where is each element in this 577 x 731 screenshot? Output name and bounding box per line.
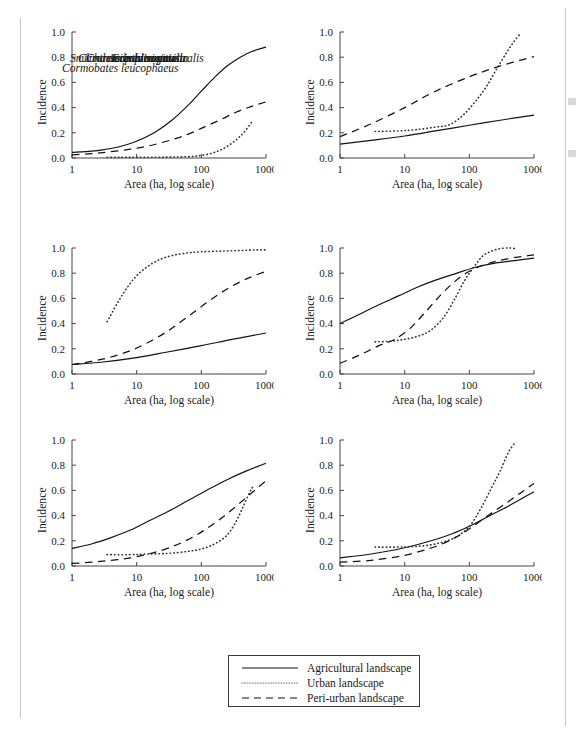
dashed-line-swatch: [241, 693, 299, 703]
x-axis-tick-label: 1: [337, 163, 343, 175]
x-axis-tick-label: 10: [399, 163, 411, 175]
y-axis-label: Incidence: [304, 295, 316, 341]
page-edge-mark: [568, 150, 576, 157]
x-axis-label: Area (ha, log scale): [72, 178, 266, 190]
legend-item: Peri-urban landscape: [241, 691, 419, 705]
series-line-urban: [107, 122, 251, 157]
x-axis-tick-label: 1: [69, 163, 75, 175]
x-axis-tick-label: 1000: [523, 163, 542, 175]
y-axis-tick-label: 0.6: [319, 484, 333, 496]
y-axis-tick-label: 0.2: [319, 343, 333, 355]
series-line-agricultural: [340, 258, 534, 324]
series-line-urban: [375, 443, 514, 547]
x-axis-tick-label: 1: [337, 379, 343, 391]
plot-area: 0.00.20.40.60.81.01101001000: [30, 22, 274, 194]
x-axis-tick-label: 1000: [523, 571, 542, 583]
y-axis-tick-label: 0.8: [319, 267, 333, 279]
y-axis-tick-label: 0.6: [51, 76, 65, 88]
y-axis-label: Incidence: [36, 295, 48, 341]
series-line-peri-urban: [340, 483, 534, 562]
chart-panel-p4: 0.00.20.40.60.81.01101001000IncidenceAre…: [298, 238, 542, 410]
series-line-urban: [107, 487, 252, 554]
y-axis-tick-label: 0.8: [319, 51, 333, 63]
y-axis-tick-label: 1.0: [319, 434, 333, 446]
plot-area: 0.00.20.40.60.81.01101001000: [298, 22, 542, 194]
x-axis-tick-label: 10: [131, 379, 143, 391]
y-axis-tick-label: 0.2: [319, 127, 333, 139]
x-axis-tick-label: 100: [461, 379, 478, 391]
chart-panel-p5: 0.00.20.40.60.81.01101001000IncidenceAre…: [30, 430, 274, 602]
y-axis-tick-label: 0.2: [51, 127, 65, 139]
y-axis-tick-label: 0.8: [51, 459, 65, 471]
plot-area: 0.00.20.40.60.81.01101001000: [298, 430, 542, 602]
chart-panel-p6: 0.00.20.40.60.81.01101001000IncidenceAre…: [298, 430, 542, 602]
series-line-peri-urban: [72, 102, 266, 155]
solid-line-swatch: [241, 663, 299, 673]
panel-species-title: Chthonicola sagittata: [86, 52, 186, 64]
y-axis-tick-label: 0.4: [51, 101, 65, 113]
series-line-peri-urban: [72, 481, 266, 564]
x-axis-label: Area (ha, log scale): [72, 394, 266, 406]
series-line-agricultural: [72, 463, 266, 548]
legend-item: Urban landscape: [241, 676, 419, 690]
x-axis-label: Area (ha, log scale): [72, 586, 266, 598]
y-axis-tick-label: 0.4: [319, 317, 333, 329]
x-axis-tick-label: 100: [193, 379, 210, 391]
x-axis-tick-label: 1: [69, 379, 75, 391]
y-axis-label: Incidence: [304, 487, 316, 533]
x-axis-tick-label: 1000: [255, 571, 274, 583]
y-axis-tick-label: 0.6: [319, 292, 333, 304]
y-axis-tick-label: 0.0: [319, 152, 333, 164]
y-axis-tick-label: 0.8: [319, 459, 333, 471]
y-axis-tick-label: 1.0: [51, 434, 65, 446]
y-axis-tick-label: 0.4: [319, 101, 333, 113]
x-axis-label: Area (ha, log scale): [340, 394, 534, 406]
x-axis-tick-label: 100: [193, 163, 210, 175]
y-axis-label: Incidence: [36, 487, 48, 533]
x-axis-tick-label: 1: [69, 571, 75, 583]
y-axis-label: Incidence: [36, 79, 48, 125]
x-axis-label: Area (ha, log scale): [340, 178, 534, 190]
series-line-peri-urban: [72, 271, 266, 364]
x-axis-tick-label: 10: [399, 379, 411, 391]
legend-item: Agricultural landscape: [241, 661, 419, 675]
x-axis-tick-label: 100: [193, 571, 210, 583]
legend-label-peri-urban: Peri-urban landscape: [307, 692, 404, 705]
y-axis-tick-label: 0.0: [51, 560, 65, 572]
x-axis-tick-label: 10: [131, 571, 143, 583]
y-axis-tick-label: 1.0: [319, 242, 333, 254]
series-line-urban: [107, 250, 266, 322]
x-axis-label: Area (ha, log scale): [340, 586, 534, 598]
page-edge-rule-right: [565, 8, 566, 726]
x-axis-tick-label: 1000: [255, 379, 274, 391]
x-axis-tick-label: 100: [461, 571, 478, 583]
chart-panel-p1: 0.00.20.40.60.81.01101001000IncidenceAre…: [30, 22, 274, 194]
y-axis-tick-label: 0.8: [51, 267, 65, 279]
y-axis-tick-label: 0.4: [51, 317, 65, 329]
y-axis-tick-label: 0.6: [51, 484, 65, 496]
y-axis-label: Incidence: [304, 79, 316, 125]
y-axis-tick-label: 1.0: [51, 26, 65, 38]
page-edge-rule-left: [20, 18, 21, 718]
y-axis-tick-label: 0.0: [51, 368, 65, 380]
x-axis-tick-label: 1: [337, 571, 343, 583]
legend-label-agricultural: Agricultural landscape: [307, 662, 411, 675]
x-axis-tick-label: 1000: [255, 163, 274, 175]
plot-area: 0.00.20.40.60.81.01101001000: [298, 238, 542, 410]
plot-area: 0.00.20.40.60.81.01101001000: [30, 430, 274, 602]
legend: Agricultural landscape Urban landscape P…: [228, 655, 420, 707]
y-axis-tick-label: 0.4: [319, 509, 333, 521]
series-line-urban: [375, 35, 519, 132]
chart-panel-p2: 0.00.20.40.60.81.01101001000IncidenceAre…: [298, 22, 542, 194]
y-axis-tick-label: 0.0: [319, 560, 333, 572]
legend-label-urban: Urban landscape: [307, 677, 384, 690]
page-edge-mark: [568, 98, 576, 105]
figure-root: 0.00.20.40.60.81.01101001000IncidenceAre…: [0, 0, 577, 731]
y-axis-tick-label: 0.2: [319, 535, 333, 547]
y-axis-tick-label: 0.2: [51, 535, 65, 547]
y-axis-tick-label: 0.0: [51, 152, 65, 164]
dotted-line-swatch: [241, 678, 299, 688]
y-axis-tick-label: 0.6: [319, 76, 333, 88]
x-axis-tick-label: 10: [131, 163, 143, 175]
series-line-agricultural: [340, 115, 534, 144]
